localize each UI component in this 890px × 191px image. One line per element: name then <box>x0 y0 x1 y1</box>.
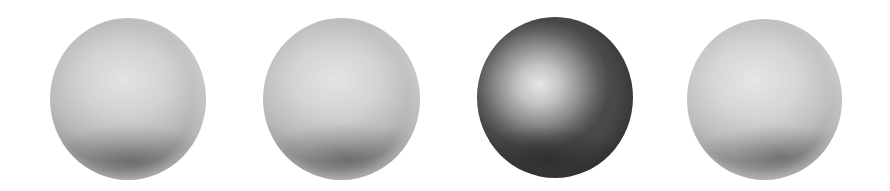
sphere-3 <box>477 17 633 178</box>
sphere-4 <box>687 19 842 180</box>
sphere-1 <box>50 18 206 180</box>
sphere-2 <box>263 18 420 180</box>
